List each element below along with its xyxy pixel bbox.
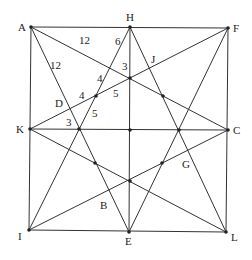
length-label: 4 bbox=[79, 89, 85, 101]
length-label: 5 bbox=[113, 87, 119, 99]
point-dot bbox=[128, 179, 132, 183]
point-label-f: F bbox=[233, 22, 239, 34]
length-label: 4 bbox=[97, 72, 103, 84]
point-label-h: H bbox=[126, 11, 134, 23]
length-label: 12 bbox=[79, 34, 90, 46]
point-dot bbox=[177, 128, 181, 132]
point-label-g: G bbox=[182, 158, 190, 170]
geometry-diagram: AHFKCIELDJGB12126345453 bbox=[0, 0, 252, 260]
length-label: 5 bbox=[92, 107, 98, 119]
point-label-e: E bbox=[125, 235, 132, 247]
length-label: 3 bbox=[122, 60, 128, 72]
point-dot bbox=[226, 128, 230, 132]
segment bbox=[29, 130, 228, 230]
point-label-i: I bbox=[18, 230, 22, 242]
point-dot bbox=[29, 25, 33, 29]
point-dot bbox=[161, 94, 165, 98]
point-label-d: D bbox=[55, 97, 63, 109]
length-label: 12 bbox=[50, 59, 61, 71]
length-label: 3 bbox=[66, 116, 72, 128]
point-label-b: B bbox=[100, 199, 107, 211]
point-dot bbox=[94, 94, 98, 98]
point-dot bbox=[127, 230, 131, 234]
point-dot bbox=[28, 127, 32, 131]
point-dot bbox=[128, 76, 132, 80]
point-dot bbox=[224, 230, 228, 234]
point-dot bbox=[27, 228, 31, 232]
point-dot bbox=[128, 25, 132, 29]
point-dot bbox=[77, 127, 81, 131]
point-label-k: K bbox=[16, 123, 24, 135]
point-dot bbox=[93, 161, 97, 165]
point-dot bbox=[226, 26, 230, 30]
point-label-c: C bbox=[233, 124, 240, 136]
length-label: 6 bbox=[115, 35, 121, 47]
point-label-j: J bbox=[151, 53, 156, 65]
point-dot bbox=[160, 161, 164, 165]
point-dot bbox=[128, 128, 132, 132]
point-label-l: L bbox=[231, 231, 238, 243]
point-label-a: A bbox=[18, 21, 26, 33]
